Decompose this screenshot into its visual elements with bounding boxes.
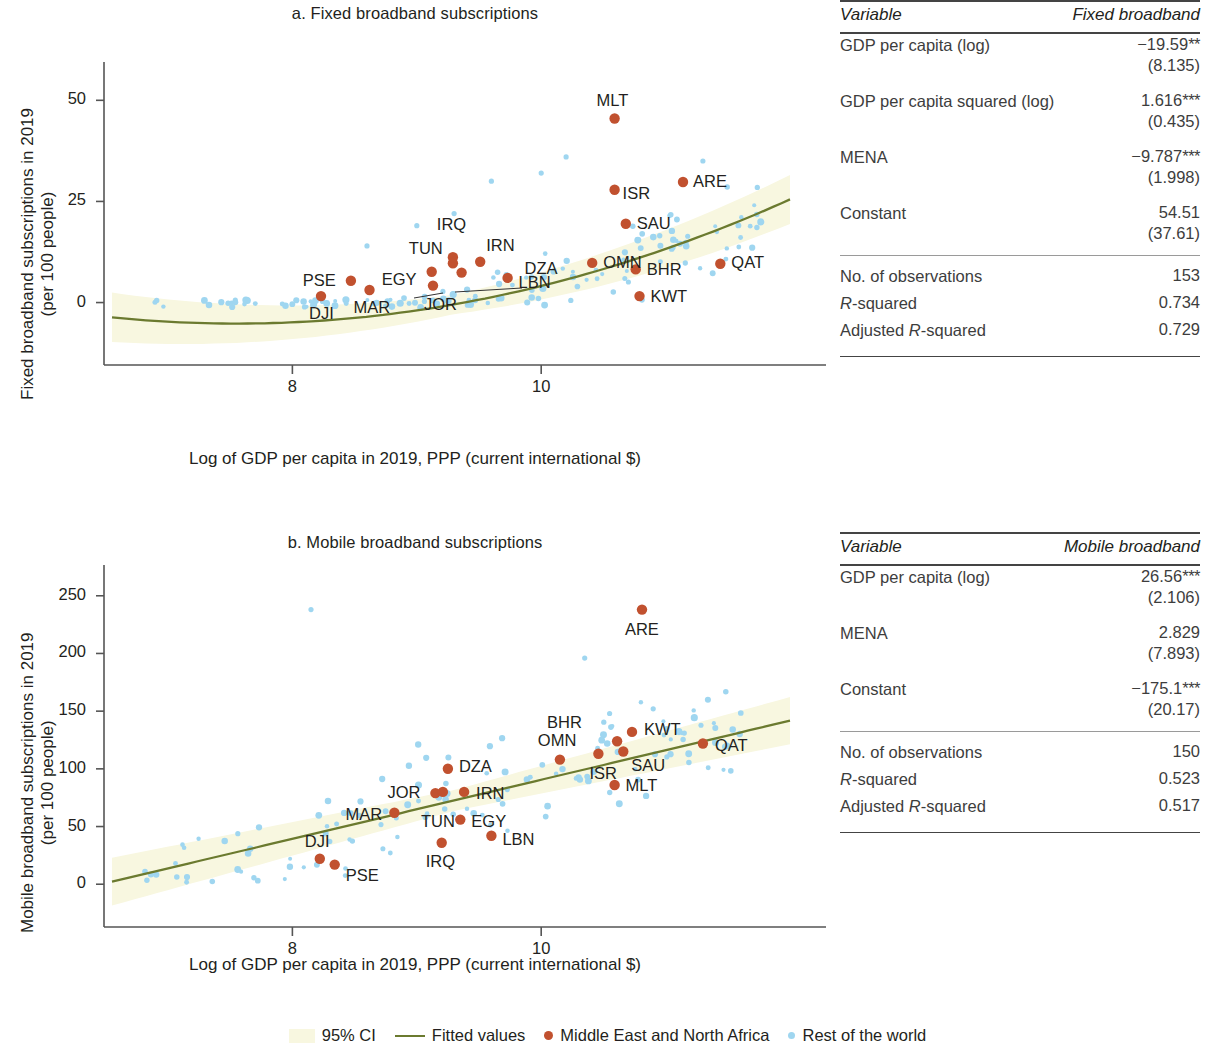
scatter-point-dji — [315, 854, 325, 864]
y-tick-label: 150 — [22, 700, 86, 719]
scatter-point-rest-of-world — [568, 298, 573, 303]
scatter-point-rest-of-world — [543, 251, 548, 256]
scatter-point-rest-of-world — [723, 689, 729, 695]
scatter-point-rest-of-world — [350, 838, 355, 843]
point-label-egy: EGY — [471, 812, 506, 831]
scatter-point-rest-of-world — [698, 723, 703, 728]
scatter-point-rest-of-world — [582, 656, 587, 661]
scatter-point-sau — [621, 219, 631, 229]
table-a-header-variable: Variable — [840, 1, 1066, 33]
y-tick-label: 200 — [22, 642, 86, 661]
table-stat-value: 0.734 — [1066, 290, 1200, 317]
scatter-point-rest-of-world — [325, 824, 330, 829]
scatter-point-rest-of-world — [561, 266, 565, 270]
table-cell-coefficient: −19.59** — [1066, 33, 1200, 55]
scatter-point-rest-of-world — [564, 258, 570, 264]
scatter-point-rest-of-world — [401, 295, 407, 301]
point-label-mar: MAR — [354, 298, 391, 317]
table-stat-row: R-squared0.734 — [840, 290, 1200, 317]
scatter-point-egy — [455, 814, 465, 824]
scatter-point-rest-of-world — [543, 814, 549, 820]
point-label-irn: IRN — [476, 784, 504, 803]
scatter-point-rest-of-world — [712, 721, 716, 725]
scatter-point-rest-of-world — [667, 751, 673, 757]
scatter-point-irq — [448, 252, 458, 262]
scatter-point-tun — [438, 787, 448, 797]
scatter-point-rest-of-world — [218, 299, 224, 305]
mena-dot-swatch-icon — [544, 1031, 553, 1040]
scatter-point-rest-of-world — [539, 171, 544, 176]
table-stat-value: 150 — [1029, 739, 1200, 766]
scatter-point-rest-of-world — [674, 239, 678, 243]
legend-label-fitted: Fitted values — [432, 1026, 526, 1045]
point-label-isr: ISR — [589, 764, 617, 783]
chart-panel-fixed-broadband: a. Fixed broadband subscriptions Fixed b… — [0, 0, 830, 500]
scatter-point-rest-of-world — [308, 607, 313, 612]
table-b-body: GDP per capita (log)26.56***(2.106)MENA2… — [840, 565, 1200, 833]
scatter-point-rest-of-world — [229, 304, 235, 310]
scatter-point-rest-of-world — [584, 278, 588, 282]
table-a-header-row: Variable Fixed broadband — [840, 1, 1200, 33]
y-tick-label: 100 — [22, 758, 86, 777]
scatter-point-rest-of-world — [293, 297, 299, 303]
table-stat-value: 153 — [1066, 263, 1200, 290]
point-label-are: ARE — [693, 172, 727, 191]
scatter-point-rest-of-world — [610, 724, 614, 728]
scatter-point-rest-of-world — [674, 217, 680, 223]
scatter-point-rest-of-world — [210, 879, 216, 885]
point-label-bhr: BHR — [547, 713, 582, 732]
scatter-point-rest-of-world — [607, 711, 612, 716]
scatter-point-rest-of-world — [634, 237, 641, 244]
table-cell-variable: Constant — [840, 678, 1029, 720]
scatter-point-rest-of-world — [496, 281, 502, 287]
chart-a-x-axis-label: Log of GDP per capita in 2019, PPP (curr… — [0, 449, 830, 469]
table-stat-row: R-squared0.523 — [840, 766, 1200, 793]
legend-item-rest-of-world: Rest of the world — [788, 1026, 926, 1045]
table-row: MENA2.829 — [840, 622, 1200, 643]
scatter-point-rest-of-world — [144, 878, 149, 883]
scatter-point-rest-of-world — [559, 766, 565, 772]
point-label-kwt: KWT — [650, 287, 687, 306]
significance-stars: *** — [1182, 91, 1200, 109]
table-stat-row: No. of observations150 — [840, 739, 1200, 766]
point-label-pse: PSE — [346, 866, 379, 885]
scatter-point-rest-of-world — [152, 300, 157, 305]
chart-panel-mobile-broadband: b. Mobile broadband subscriptions Mobile… — [0, 515, 830, 1015]
scatter-point-rest-of-world — [600, 272, 604, 276]
scatter-point-mar — [389, 808, 399, 818]
y-tick-label: 50 — [22, 816, 86, 835]
table-cell-variable: Constant — [840, 202, 1066, 244]
point-label-bhr: BHR — [647, 260, 682, 279]
table-stat-label: No. of observations — [840, 739, 1029, 766]
table-stat-label: No. of observations — [840, 263, 1066, 290]
scatter-point-rest-of-world — [344, 301, 349, 306]
regression-table-fixed-broadband: Variable Fixed broadband GDP per capita … — [840, 0, 1200, 357]
point-label-dji: DJI — [309, 304, 334, 323]
table-stat-row: Adjusted R-squared0.517 — [840, 793, 1200, 820]
table-row: Constant−175.1*** — [840, 678, 1200, 699]
scatter-point-rest-of-world — [749, 245, 755, 251]
legend-item-ci: 95% CI — [289, 1026, 376, 1045]
point-label-are: ARE — [625, 620, 659, 639]
scatter-point-rest-of-world — [738, 710, 744, 716]
scatter-point-rest-of-world — [300, 298, 307, 305]
scatter-point-rest-of-world — [611, 289, 617, 295]
x-tick-label: 8 — [262, 377, 322, 396]
significance-stars: *** — [1182, 679, 1200, 697]
scatter-point-rest-of-world — [287, 864, 293, 870]
scatter-point-kwt — [627, 727, 637, 737]
scatter-point-rest-of-world — [465, 807, 469, 811]
scatter-point-rest-of-world — [607, 790, 612, 795]
significance-stars: *** — [1182, 567, 1200, 585]
point-label-omn: OMN — [538, 731, 577, 750]
table-stat-label: Adjusted R-squared — [840, 317, 1066, 344]
table-cell-variable: GDP per capita squared (log) — [840, 90, 1066, 132]
scatter-point-rest-of-world — [486, 301, 491, 306]
scatter-point-rest-of-world — [235, 831, 240, 836]
scatter-point-omn — [555, 754, 565, 764]
scatter-point-rest-of-world — [499, 735, 505, 741]
scatter-point-rest-of-world — [196, 837, 200, 841]
scatter-point-jor — [428, 280, 438, 290]
scatter-point-rest-of-world — [406, 763, 412, 769]
scatter-point-kwt — [634, 291, 644, 301]
